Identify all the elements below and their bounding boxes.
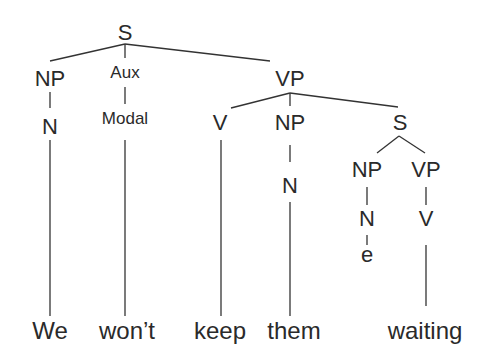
word-waiting: waiting <box>387 317 463 344</box>
sentence-words: We won’t keep them waiting <box>32 317 462 344</box>
node-vp-main: VP <box>275 66 304 91</box>
word-keep: keep <box>194 317 246 344</box>
edge-s2-vp2 <box>399 136 425 153</box>
node-vp-embedded: VP <box>411 157 440 182</box>
edge-s-np <box>50 44 125 61</box>
node-np-object: NP <box>275 110 306 135</box>
word-wont: won’t <box>98 317 155 344</box>
edge-s2-np3 <box>377 136 399 153</box>
node-aux: Aux <box>110 63 140 82</box>
node-s-root: S <box>118 20 133 45</box>
node-v-keep: V <box>213 110 228 135</box>
node-v-waiting: V <box>419 206 434 231</box>
node-n-subject: N <box>42 114 58 139</box>
word-them: them <box>267 317 320 344</box>
node-np-subject: NP <box>35 66 66 91</box>
node-np-embedded: NP <box>352 157 383 182</box>
node-n-empty: N <box>359 206 375 231</box>
word-we: We <box>32 317 68 344</box>
node-modal: Modal <box>102 109 148 128</box>
edge-vp-s <box>290 93 398 107</box>
syntax-tree-diagram: S NP Aux VP N Modal V NP S N NP VP N V e… <box>0 0 490 364</box>
node-s-embedded: S <box>393 110 408 135</box>
node-empty-e: e <box>361 242 373 267</box>
edge-s-vp <box>125 44 270 61</box>
edge-vp-v <box>231 93 290 108</box>
node-n-object: N <box>282 173 298 198</box>
